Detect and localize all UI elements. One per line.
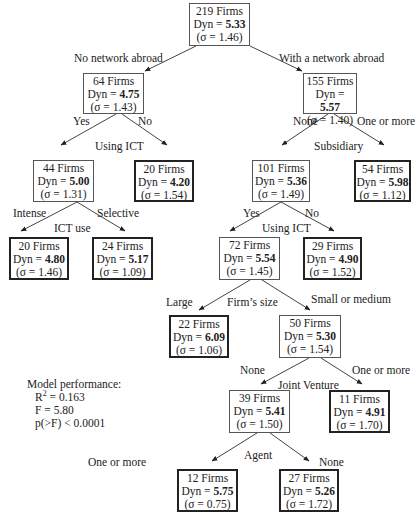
split-label: Yes xyxy=(73,115,90,128)
node-sigma: (σ = 1.54) xyxy=(280,343,340,356)
split-label: Large xyxy=(166,296,193,309)
node-dyn-value: Dyn = 5.30 xyxy=(280,330,340,343)
tree-split-node: 219 FirmsDyn = 5.33(σ = 1.46) xyxy=(189,3,250,46)
node-firm-count: 11 Firms xyxy=(331,393,388,406)
split-label: Using ICT xyxy=(95,140,144,153)
split-label: None xyxy=(240,364,265,377)
node-dyn-value: Dyn = 4.75 xyxy=(84,88,143,101)
split-label: Intense xyxy=(13,207,46,220)
node-sigma: (σ = 1.46) xyxy=(11,266,67,279)
split-label: Joint Venture xyxy=(278,379,339,392)
tree-leaf-node: 11 FirmsDyn = 4.91(σ = 1.70) xyxy=(329,390,390,433)
model-performance: Model performance: R2 = 0.163 F = 5.80 p… xyxy=(27,378,121,430)
split-label: Selective xyxy=(97,207,139,220)
node-dyn-value: Dyn = 6.09 xyxy=(171,331,227,344)
node-firm-count: 27 Firms xyxy=(281,472,337,485)
node-sigma: (σ = 1.52) xyxy=(305,266,360,279)
r-squared: R2 = 0.163 xyxy=(27,391,121,404)
node-dyn-value: Dyn = 4.90 xyxy=(305,253,360,266)
tree-split-node: 39 FirmsDyn = 5.41(σ = 1.50) xyxy=(229,390,290,433)
tree-leaf-node: 12 FirmsDyn = 5.75(σ = 0.75) xyxy=(177,469,238,512)
split-label: Firm’s size xyxy=(227,296,278,309)
node-dyn-value: Dyn = 5.54 xyxy=(220,252,279,265)
p-value: p(>F) < 0.0001 xyxy=(27,417,121,430)
split-label: Small or medium xyxy=(311,293,391,306)
node-sigma: (σ = 1.54) xyxy=(136,189,192,202)
node-sigma: (σ = 1.72) xyxy=(281,498,337,511)
tree-split-node: 64 FirmsDyn = 4.75(σ = 1.43) xyxy=(83,73,144,114)
node-dyn-value: Dyn = 5.41 xyxy=(230,405,289,418)
node-sigma: (σ = 1.70) xyxy=(331,419,388,432)
f-statistic: F = 5.80 xyxy=(27,404,121,417)
node-firm-count: 50 Firms xyxy=(280,317,340,330)
tree-split-node: 44 FirmsDyn = 5.00(σ = 1.31) xyxy=(33,160,94,202)
node-dyn-value: Dyn = 5.26 xyxy=(281,485,337,498)
split-label: Using ICT xyxy=(262,222,311,235)
split-label: ICT use xyxy=(54,222,91,235)
tree-leaf-node: 27 FirmsDyn = 5.26(σ = 1.72) xyxy=(279,469,339,512)
node-sigma: (σ = 1.06) xyxy=(171,344,227,357)
split-label: With a network abroad xyxy=(279,52,384,65)
tree-leaf-node: 54 FirmsDyn = 5.98(σ = 1.12) xyxy=(354,160,411,202)
split-label: Yes xyxy=(243,207,260,220)
node-firm-count: 155 Firms xyxy=(304,75,356,88)
node-dyn-value: Dyn = 5.17 xyxy=(94,253,151,266)
node-dyn-value: Dyn = 4.80 xyxy=(11,253,67,266)
split-label: One or more xyxy=(88,456,146,469)
tree-leaf-node: 20 FirmsDyn = 4.20(σ = 1.54) xyxy=(134,160,194,202)
tree-split-node: 50 FirmsDyn = 5.30(σ = 1.54) xyxy=(279,315,341,358)
split-label: None xyxy=(319,456,344,469)
tree-split-node: 155 FirmsDyn = 5.57(σ = 1.40) xyxy=(303,73,357,114)
node-dyn-value: Dyn = 4.20 xyxy=(136,176,192,189)
node-firm-count: 20 Firms xyxy=(11,240,67,253)
model-performance-heading: Model performance: xyxy=(27,378,121,391)
node-dyn-value: Dyn = 5.75 xyxy=(179,485,236,498)
node-sigma: (σ = 1.09) xyxy=(94,266,151,279)
node-dyn-value: Dyn = 5.36 xyxy=(253,175,309,188)
tree-split-node: 72 FirmsDyn = 5.54(σ = 1.45) xyxy=(219,237,280,280)
node-dyn-value: Dyn = 5.33 xyxy=(190,18,249,31)
node-sigma: (σ = 1.45) xyxy=(220,265,279,278)
split-label: Agent xyxy=(244,449,272,462)
split-label: None xyxy=(293,115,318,128)
node-dyn-value: Dyn = 4.91 xyxy=(331,406,388,419)
split-label: Subsidiary xyxy=(314,140,363,153)
split-label: One or more xyxy=(357,115,415,128)
tree-leaf-node: 22 FirmsDyn = 6.09(σ = 1.06) xyxy=(169,315,229,358)
tree-split-node: 101 FirmsDyn = 5.36(σ = 1.49) xyxy=(252,160,310,202)
split-label: One or more xyxy=(352,364,410,377)
node-firm-count: 29 Firms xyxy=(305,240,360,253)
node-firm-count: 39 Firms xyxy=(230,392,289,405)
node-firm-count: 219 Firms xyxy=(190,5,249,18)
node-firm-count: 22 Firms xyxy=(171,318,227,331)
tree-edge-arrow xyxy=(270,433,309,461)
node-sigma: (σ = 1.49) xyxy=(253,188,309,201)
node-firm-count: 44 Firms xyxy=(34,162,93,175)
node-firm-count: 12 Firms xyxy=(179,472,236,485)
node-firm-count: 24 Firms xyxy=(94,240,151,253)
node-firm-count: 54 Firms xyxy=(356,163,409,176)
split-label: No xyxy=(305,207,319,220)
node-dyn-value: Dyn = 5.00 xyxy=(34,175,93,188)
node-sigma: (σ = 1.50) xyxy=(230,418,289,431)
split-label: No network abroad xyxy=(74,52,163,65)
node-sigma: (σ = 1.43) xyxy=(84,101,143,114)
node-sigma: (σ = 1.46) xyxy=(190,31,249,44)
node-sigma: (σ = 1.31) xyxy=(34,188,93,201)
node-dyn-value: Dyn = 5.98 xyxy=(356,176,409,189)
node-firm-count: 101 Firms xyxy=(253,162,309,175)
split-label: No xyxy=(138,115,152,128)
tree-leaf-node: 29 FirmsDyn = 4.90(σ = 1.52) xyxy=(303,237,362,280)
node-firm-count: 64 Firms xyxy=(84,75,143,88)
node-firm-count: 20 Firms xyxy=(136,163,192,176)
node-dyn-value: Dyn = 5.57 xyxy=(304,88,356,114)
tree-leaf-node: 20 FirmsDyn = 4.80(σ = 1.46) xyxy=(9,237,69,280)
node-sigma: (σ = 1.12) xyxy=(356,189,409,202)
tree-leaf-node: 24 FirmsDyn = 5.17(σ = 1.09) xyxy=(92,237,153,280)
node-sigma: (σ = 0.75) xyxy=(179,498,236,511)
node-firm-count: 72 Firms xyxy=(220,239,279,252)
